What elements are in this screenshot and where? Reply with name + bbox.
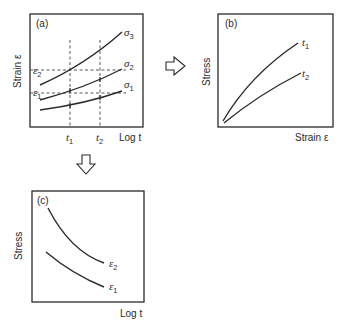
- sigma1-curve: [40, 91, 122, 110]
- panel-c-ylabel: Stress: [13, 232, 24, 260]
- t1-curve: [223, 43, 298, 121]
- panel-a-ylabel: Strain ε: [12, 54, 23, 88]
- sigma3-label: σ3: [124, 26, 134, 41]
- creep-curves-diagram: (a) σ3 σ2 σ1 ε2 ε1 t1 t2 Log t Strain ε …: [0, 0, 346, 328]
- panel-b-xlabel: Strain ε: [295, 132, 329, 143]
- eps2-tick: ε2: [33, 64, 42, 79]
- panel-c-frame: [32, 191, 144, 302]
- panel-c-tag: (c): [37, 195, 49, 206]
- sigma3-curve: [40, 32, 122, 85]
- right-arrow-icon: [166, 57, 185, 75]
- eps1-tick: ε1: [33, 86, 42, 101]
- t1-tick: t1: [66, 131, 73, 146]
- panel-b-ylabel: Stress: [201, 58, 212, 86]
- panel-c: (c) ε2 ε1 Log t Stress: [13, 191, 144, 319]
- panel-c-xlabel: Log t: [120, 308, 142, 319]
- t1-label: t1: [302, 36, 309, 51]
- eps1-curve: [46, 252, 104, 287]
- panel-b-frame: [218, 14, 333, 127]
- panel-a-tag: (a): [36, 18, 48, 29]
- panel-b: (b) t1 t2 Strain ε Stress: [201, 14, 333, 143]
- eps2-curve: [48, 208, 104, 263]
- eps2-label: ε2: [109, 257, 118, 272]
- sigma1-label: σ1: [124, 78, 134, 93]
- down-arrow-icon: [77, 155, 95, 174]
- t2-label: t2: [302, 67, 309, 82]
- t2-curve: [224, 73, 301, 123]
- t2-tick: t2: [96, 131, 103, 146]
- eps1-label: ε1: [109, 280, 118, 295]
- panel-a-xlabel: Log t: [119, 132, 141, 143]
- panel-a: (a) σ3 σ2 σ1 ε2 ε1 t1 t2 Log t Strain ε: [12, 14, 143, 146]
- panel-b-tag: (b): [225, 18, 237, 29]
